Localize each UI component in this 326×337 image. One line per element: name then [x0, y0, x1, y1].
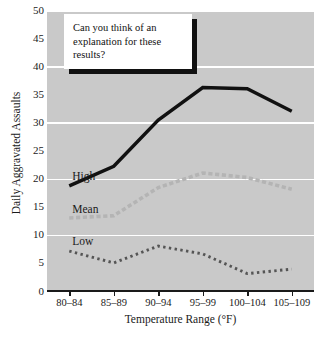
x-tick-mark	[203, 291, 205, 296]
x-tick-mark	[158, 291, 160, 296]
callout-text: Can you think of an explanation for thes…	[73, 21, 185, 62]
callout-box: Can you think of an explanation for thes…	[64, 14, 192, 69]
chart-figure: 05101520253035404550 High Mean Low Daily…	[0, 0, 326, 337]
x-tick-mark	[292, 291, 294, 296]
series-line-low	[69, 246, 292, 274]
y-axis-title: Daily Aggravated Assaults	[10, 53, 22, 253]
x-axis-title: Temperature Range (°F)	[47, 313, 314, 325]
series-label-mean: Mean	[72, 203, 98, 215]
x-tick-label: 105–109	[262, 297, 322, 308]
series-line-mean	[69, 173, 292, 218]
series-label-low: Low	[72, 235, 93, 247]
series-line-high	[69, 88, 292, 186]
x-tick-mark	[247, 291, 249, 296]
x-tick-mark	[69, 291, 71, 296]
x-tick-mark	[114, 291, 116, 296]
series-label-high: High	[72, 170, 95, 182]
